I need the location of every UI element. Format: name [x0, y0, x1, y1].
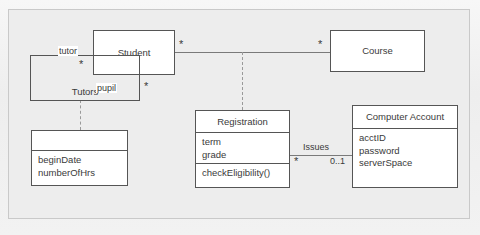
- class-box-registration[interactable]: Registration term grade checkEligibility…: [195, 110, 290, 188]
- multiplicity-pupil: *: [144, 82, 148, 91]
- uml-class-diagram-canvas: Student Course Tutors beginDate numberOf…: [0, 0, 480, 235]
- class-box-tutors-details[interactable]: beginDate numberOfHrs: [31, 130, 128, 186]
- class-name-tutors-details: [32, 131, 127, 150]
- role-label-pupil: pupil: [96, 83, 117, 93]
- attributes-compartment-registration: term grade: [196, 132, 289, 163]
- attributes-compartment-tutors-details: beginDate numberOfHrs: [32, 150, 127, 182]
- class-name-registration: Registration: [196, 111, 289, 132]
- attribute-password: password: [359, 145, 452, 158]
- association-class-link-tutors: [80, 100, 81, 130]
- class-name-computer-account: Computer Account: [353, 106, 457, 128]
- attribute-number-of-hrs: numberOfHrs: [38, 167, 122, 180]
- attribute-grade: grade: [202, 149, 284, 162]
- multiplicity-student-course-source: *: [179, 40, 183, 49]
- attribute-term: term: [202, 136, 284, 149]
- multiplicity-issues-target: 0..1: [330, 157, 345, 166]
- attribute-acct-id: acctID: [359, 132, 452, 145]
- multiplicity-tutor: *: [79, 60, 83, 69]
- association-line-student-course: [174, 52, 331, 53]
- operations-compartment-registration: checkEligibility(): [196, 163, 289, 183]
- operation-check-eligibility: checkEligibility(): [202, 167, 284, 180]
- class-name-tutors: Tutors: [31, 87, 139, 97]
- class-box-tutors[interactable]: Tutors: [30, 55, 140, 101]
- multiplicity-issues-source: *: [294, 157, 298, 166]
- class-name-course: Course: [359, 46, 396, 56]
- attribute-server-space: serverSpace: [359, 157, 452, 170]
- association-name-issues: Issues: [303, 142, 329, 152]
- association-class-link-registration: [242, 52, 243, 110]
- class-box-course[interactable]: Course: [330, 30, 425, 72]
- attribute-begin-date: beginDate: [38, 154, 122, 167]
- class-box-computer-account[interactable]: Computer Account acctID password serverS…: [352, 105, 458, 188]
- attributes-compartment-computer-account: acctID password serverSpace: [353, 128, 457, 173]
- role-label-tutor: tutor: [58, 46, 78, 56]
- multiplicity-student-course-target: *: [318, 40, 322, 49]
